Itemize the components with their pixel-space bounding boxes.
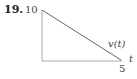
velocity-line: [42, 10, 121, 60]
plot-area: [0, 0, 137, 79]
